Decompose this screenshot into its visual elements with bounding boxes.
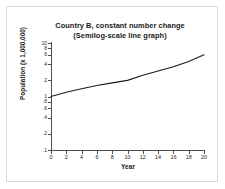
data-series-layer bbox=[51, 43, 205, 151]
y-tick-label: 2 bbox=[33, 77, 47, 83]
x-tick-label: 16 bbox=[170, 154, 176, 161]
y-tick-label: .1 bbox=[33, 147, 47, 153]
x-tick-label: 12 bbox=[140, 154, 146, 161]
chart-title-line-1: Country B, constant number change bbox=[30, 21, 210, 31]
chart-subtitle-line-2: (Semilog-scale line graph) bbox=[30, 31, 210, 41]
chart-title: Country B, constant number change (Semil… bbox=[30, 21, 210, 41]
y-tick-label: .4 bbox=[33, 114, 47, 120]
x-tick-label: 6 bbox=[95, 154, 98, 161]
x-tick-label: 10 bbox=[125, 154, 131, 161]
x-axis-label: Year bbox=[51, 163, 205, 170]
y-tick-label: .6 bbox=[33, 105, 47, 111]
y-tick-label: .8 bbox=[33, 98, 47, 104]
x-tick-label: 20 bbox=[201, 154, 207, 161]
x-tick-label: 0 bbox=[50, 154, 53, 161]
x-tick-label: 14 bbox=[155, 154, 161, 161]
y-tick-label: 6 bbox=[33, 51, 47, 57]
x-tick-label: 18 bbox=[186, 154, 192, 161]
y-axis-label: Population (x 1,000,000) bbox=[19, 9, 26, 119]
x-tick-label: 4 bbox=[80, 154, 83, 161]
x-tick-label: 2 bbox=[65, 154, 68, 161]
x-tick-label: 8 bbox=[111, 154, 114, 161]
y-tick-label: 4 bbox=[33, 61, 47, 67]
y-tick-label: .2 bbox=[33, 130, 47, 136]
y-tick-label: 8 bbox=[33, 45, 47, 51]
chart-figure: Country B, constant number change (Semil… bbox=[0, 0, 225, 189]
line-series-country-b bbox=[51, 55, 204, 97]
